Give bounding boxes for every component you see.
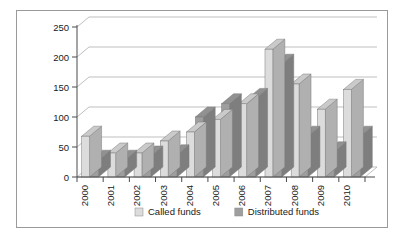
x-axis-label-2007: 2007: [262, 185, 273, 206]
bar-2000-called: [82, 126, 102, 177]
chart-figure: 0501001502002502000200120022003200420052…: [0, 0, 404, 238]
y-axis-label-200: 200: [53, 52, 69, 63]
bar-2008-called: [291, 74, 311, 177]
gridline-riser-250: [77, 17, 89, 27]
legend-item-distributed-funds: Distributed funds: [235, 206, 320, 217]
bar-side-face: [325, 99, 337, 177]
y-axis-label-100: 100: [53, 112, 69, 123]
bar-side-face: [273, 39, 285, 177]
x-axis-label-2004: 2004: [184, 185, 195, 206]
x-axis-label-2002: 2002: [131, 185, 142, 206]
legend-label: Called funds: [148, 206, 201, 217]
legend-label: Distributed funds: [248, 206, 320, 217]
x-axis-label-2001: 2001: [105, 185, 116, 206]
x-axis-label-2000: 2000: [79, 185, 90, 206]
y-axis-label-250: 250: [53, 22, 69, 33]
x-axis-label-2009: 2009: [315, 185, 326, 206]
y-axis-label-150: 150: [53, 82, 69, 93]
x-axis-label-2010: 2010: [341, 185, 352, 206]
x-axis-label-2008: 2008: [289, 185, 300, 206]
x-axis-label-2006: 2006: [236, 185, 247, 206]
bar-2006-called: [239, 94, 259, 177]
gridline-riser-100: [77, 107, 89, 117]
y-axis-label-0: 0: [64, 172, 69, 183]
bar-side-face: [299, 74, 311, 177]
bar-2009-called: [317, 99, 337, 177]
bar-side-face: [220, 109, 232, 177]
gridline-riser-150: [77, 77, 89, 87]
bar-chart-plot: 0501001502002502000200120022003200420052…: [17, 11, 387, 227]
legend-swatch: [135, 208, 143, 216]
bar-2005-called: [213, 109, 233, 177]
x-axis-label-2005: 2005: [210, 185, 221, 206]
legend-item-called-funds: Called funds: [135, 206, 201, 217]
bar-side-face: [351, 79, 363, 177]
bar-2010-called: [344, 79, 364, 177]
legend-swatch: [235, 208, 243, 216]
bar-2004-called: [186, 122, 206, 177]
chart-border-frame: 0501001502002502000200120022003200420052…: [16, 10, 388, 228]
x-axis-label-2003: 2003: [158, 185, 169, 206]
y-axis-label-50: 50: [58, 142, 69, 153]
gridline-riser-200: [77, 47, 89, 57]
bar-front-face: [82, 136, 90, 177]
bar-2007-called: [265, 39, 285, 177]
bar-side-face: [247, 94, 259, 177]
